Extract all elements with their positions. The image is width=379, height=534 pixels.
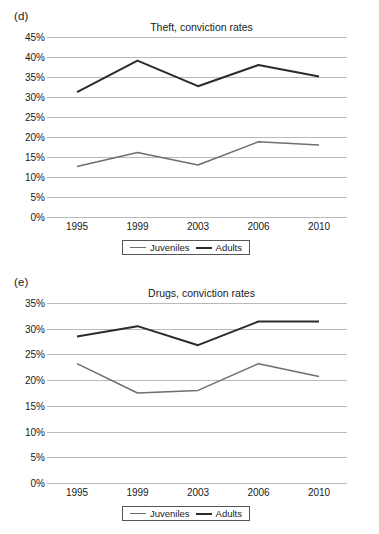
plot-area-e	[47, 303, 347, 483]
legend-line-icon-juveniles	[130, 513, 146, 514]
y-tick-label: 35%	[0, 72, 45, 83]
y-tick-label: 20%	[0, 132, 45, 143]
legend-e: Juveniles Adults	[122, 506, 250, 521]
legend-entry-adults: Adults	[196, 508, 242, 519]
legend-entry-juveniles: Juveniles	[130, 508, 190, 519]
x-tick-label: 2003	[187, 487, 209, 498]
y-tick-label: 15%	[0, 400, 45, 411]
series-line-juveniles	[77, 364, 319, 393]
y-tick-label: 5%	[0, 192, 45, 203]
y-tick-label: 45%	[0, 32, 45, 43]
x-tick-label: 2010	[308, 221, 330, 232]
series-layer-e	[47, 303, 347, 483]
gridline	[47, 217, 347, 218]
chart-title-d: Theft, conviction rates	[0, 21, 379, 33]
x-axis-d: 19951999200320062010	[47, 221, 347, 237]
y-tick-label: 0%	[0, 478, 45, 489]
x-tick-label: 2003	[187, 221, 209, 232]
x-tick-label: 1999	[126, 487, 148, 498]
x-axis-e: 19951999200320062010	[47, 487, 347, 503]
legend-line-icon-adults	[196, 513, 212, 515]
series-line-adults	[77, 322, 319, 346]
y-tick-label: 5%	[0, 452, 45, 463]
chart-panel-d: (d) Theft, conviction rates 0%5%10%15%20…	[0, 2, 379, 264]
y-tick-label: 25%	[0, 112, 45, 123]
legend-entry-adults: Adults	[196, 242, 242, 253]
x-tick-label: 1995	[66, 487, 88, 498]
legend-entry-juveniles: Juveniles	[130, 242, 190, 253]
legend-line-icon-adults	[196, 247, 212, 249]
legend-label-adults: Adults	[216, 242, 242, 253]
x-tick-label: 2006	[247, 221, 269, 232]
series-line-adults	[77, 61, 319, 93]
x-tick-label: 1995	[66, 221, 88, 232]
y-tick-label: 20%	[0, 375, 45, 386]
legend-line-icon-juveniles	[130, 247, 146, 248]
x-tick-label: 2006	[247, 487, 269, 498]
y-tick-label: 15%	[0, 152, 45, 163]
y-tick-label: 35%	[0, 298, 45, 309]
legend-label-juveniles: Juveniles	[150, 242, 190, 253]
chart-panel-e: (e) Drugs, conviction rates 0%5%10%15%20…	[0, 268, 379, 530]
plot-area-d	[47, 37, 347, 217]
figure-canvas: (d) Theft, conviction rates 0%5%10%15%20…	[0, 0, 379, 534]
legend-d: Juveniles Adults	[122, 240, 250, 255]
x-tick-label: 1999	[126, 221, 148, 232]
y-tick-label: 0%	[0, 212, 45, 223]
y-tick-label: 40%	[0, 52, 45, 63]
legend-label-adults: Adults	[216, 508, 242, 519]
y-tick-label: 25%	[0, 349, 45, 360]
series-line-juveniles	[77, 142, 319, 167]
y-tick-label: 10%	[0, 426, 45, 437]
legend-label-juveniles: Juveniles	[150, 508, 190, 519]
y-tick-label: 10%	[0, 172, 45, 183]
y-tick-label: 30%	[0, 323, 45, 334]
series-layer-d	[47, 37, 347, 217]
x-tick-label: 2010	[308, 487, 330, 498]
y-tick-label: 30%	[0, 92, 45, 103]
chart-title-e: Drugs, conviction rates	[0, 287, 379, 299]
gridline	[47, 483, 347, 484]
